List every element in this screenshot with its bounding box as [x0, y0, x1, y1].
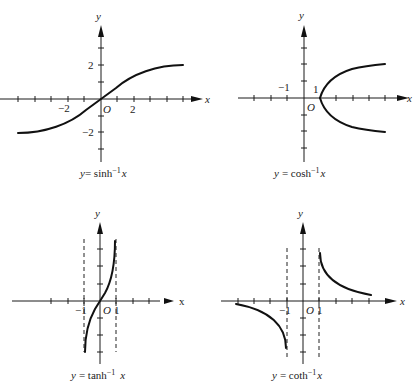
- tick-label-x-neg: −1: [278, 81, 290, 93]
- panel-sinh: y x O −2 2 2 −2 y= sinh−1x: [0, 10, 210, 179]
- y-axis-label: y: [297, 207, 303, 219]
- x-axis-arrow-icon: [164, 298, 174, 304]
- tick-label-y-neg: −2: [82, 126, 94, 138]
- caption-cosh: y= cosh−1x: [273, 166, 326, 179]
- tick-label-x-pos: 2: [130, 103, 136, 115]
- origin-label: O: [103, 304, 111, 316]
- y-axis-arrow-icon: [301, 25, 307, 37]
- tick-label-y-pos: 2: [88, 59, 94, 71]
- tick-label-x-pos: 1: [114, 304, 120, 316]
- origin-label: O: [103, 103, 111, 115]
- inverse-hyperbolic-functions-figure: y x O −2 2 2 −2 y= sinh−1x: [0, 0, 419, 391]
- caption-sinh: y= sinh−1x: [79, 166, 127, 179]
- y-axis-label: y: [95, 10, 101, 22]
- tick-label-x-neg: −1: [279, 304, 291, 316]
- origin-label: O: [306, 304, 314, 316]
- y-axis-arrow-icon: [98, 25, 104, 37]
- tick-label-x-neg: −2: [58, 102, 70, 114]
- panel-tanh: y x O −1 1 y= tanh−1x: [12, 207, 185, 381]
- x-axis-label: x: [406, 92, 412, 104]
- tick-label-x-pos: 1: [313, 83, 319, 95]
- y-axis-label: y: [298, 9, 304, 21]
- x-axis-label: x: [179, 295, 185, 307]
- tick-label-x-neg: −1: [75, 304, 87, 316]
- x-axis-label: x: [204, 93, 210, 105]
- caption-coth: y= coth−1x: [271, 368, 322, 381]
- cosh-inverse-curve-upper: [320, 64, 385, 98]
- caption-tanh: y= tanh−1x: [70, 368, 125, 381]
- x-axis-label: x: [399, 295, 405, 307]
- y-axis-arrow-icon: [97, 222, 103, 234]
- origin-label: O: [307, 101, 315, 113]
- panel-cosh: y x O −1 1 y= cosh−1x: [238, 9, 412, 179]
- y-axis-label: y: [94, 207, 100, 219]
- x-axis-arrow-icon: [191, 96, 203, 102]
- y-axis-arrow-icon: [300, 222, 306, 234]
- cosh-inverse-curve-lower: [320, 98, 385, 132]
- tick-label-x-pos: 1: [317, 304, 323, 316]
- coth-inverse-curve-right: [320, 253, 371, 295]
- panel-coth: y x O −1 1 y= coth−1x: [221, 207, 405, 381]
- x-axis-arrow-icon: [385, 298, 397, 304]
